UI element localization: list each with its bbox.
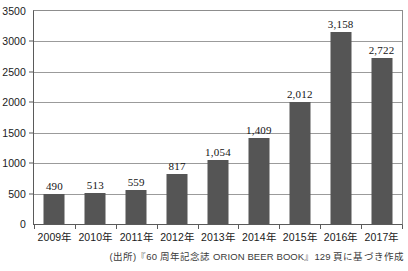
bar: [330, 32, 351, 224]
bar: [289, 102, 310, 224]
x-tick-mark: [116, 225, 117, 229]
x-tick-mark: [361, 225, 362, 229]
bars-group: 4905135598171,0541,4092,0123,1582,722: [34, 11, 402, 224]
y-tick-label: 500: [8, 188, 26, 199]
x-tick-mark: [279, 225, 280, 229]
x-tick-label: 2015年: [279, 231, 320, 244]
x-tick-mark: [157, 225, 158, 229]
y-tick-label: 0: [20, 219, 26, 230]
bar-value-label: 513: [87, 179, 104, 191]
x-tick-label: 2017年: [361, 231, 402, 244]
y-tick-label: 3000: [2, 36, 26, 47]
x-tick-mark: [402, 225, 403, 229]
x-tick-label: 2013年: [198, 231, 239, 244]
bar-value-label: 490: [46, 180, 63, 192]
x-tick-label: 2012年: [157, 231, 198, 244]
bar-value-label: 3,158: [328, 18, 354, 30]
x-tick-mark: [238, 225, 239, 229]
y-tick-label: 3500: [2, 6, 26, 17]
bar-value-label: 1,409: [246, 124, 272, 136]
x-tick-label: 2009年: [34, 231, 75, 244]
x-axis-ticks: [33, 225, 403, 230]
x-axis: 2009年2010年2011年2012年2013年2014年2015年2016年…: [34, 231, 402, 245]
bar-slot: 1,409: [238, 11, 279, 224]
bar: [126, 190, 147, 224]
x-tick-label: 2014年: [238, 231, 279, 244]
bar: [167, 174, 188, 224]
bar: [44, 194, 65, 224]
bar-slot: 2,722: [361, 11, 402, 224]
bar-slot: 2,012: [279, 11, 320, 224]
y-tick-label: 1000: [2, 158, 26, 169]
bar: [371, 58, 392, 224]
source-note: (出所)『60 周年記念誌 ORION BEER BOOK』129 頁に基づき作…: [109, 250, 404, 263]
y-axis: 0500100015002000250030003500: [0, 0, 33, 235]
bar: [85, 193, 106, 224]
x-tick-label: 2016年: [320, 231, 361, 244]
bar-value-label: 2,012: [287, 88, 313, 100]
x-tick-label: 2010年: [75, 231, 116, 244]
y-tick-label: 2500: [2, 66, 26, 77]
bar-value-label: 817: [169, 160, 186, 172]
bar: [248, 138, 269, 224]
bar-value-label: 559: [128, 176, 145, 188]
bar-slot: 490: [34, 11, 75, 224]
y-tick-label: 1500: [2, 127, 26, 138]
bar-slot: 1,054: [198, 11, 239, 224]
x-tick-mark: [75, 225, 76, 229]
x-tick-mark: [198, 225, 199, 229]
bar-slot: 513: [75, 11, 116, 224]
x-tick-mark: [320, 225, 321, 229]
bar-slot: 559: [116, 11, 157, 224]
x-tick-mark: [34, 225, 35, 229]
bar-value-label: 1,054: [205, 146, 231, 158]
bar: [207, 160, 228, 224]
y-tick-label: 2000: [2, 97, 26, 108]
bar-slot: 817: [157, 11, 198, 224]
bar-value-label: 2,722: [369, 44, 395, 56]
bar-slot: 3,158: [320, 11, 361, 224]
bar-chart-figure: 0500100015002000250030003500 49051355981…: [0, 0, 408, 271]
x-tick-label: 2011年: [116, 231, 157, 244]
